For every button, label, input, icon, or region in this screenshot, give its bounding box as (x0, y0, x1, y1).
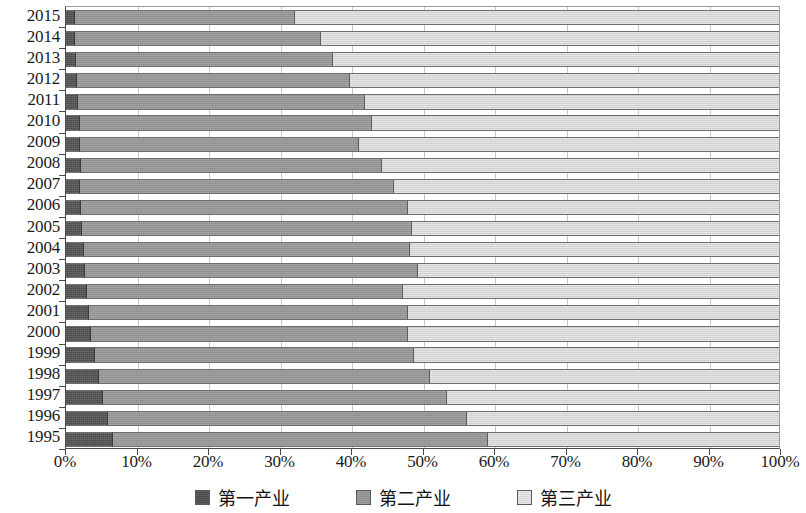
bar-segment (66, 432, 113, 447)
bar-row (66, 94, 779, 109)
bar-row (66, 115, 779, 130)
bar-row (66, 432, 779, 447)
bar-series-container (66, 7, 779, 448)
bar-row (66, 305, 779, 320)
x-axis-tick-label: 20% (193, 452, 224, 472)
x-axis-tick-label: 70% (550, 452, 581, 472)
bar-segment (87, 284, 404, 299)
bar-segment (321, 31, 779, 46)
bar-row (66, 31, 779, 46)
bar-row (66, 10, 779, 25)
y-axis-tick-label: 2015 (27, 6, 60, 26)
bar-row (66, 369, 779, 384)
bar-segment (382, 158, 779, 173)
bar-segment (359, 137, 779, 152)
legend-swatch-icon (195, 490, 210, 505)
bar-row (66, 326, 779, 341)
bar-segment (89, 305, 408, 320)
bar-segment (95, 347, 414, 362)
bar-segment (66, 10, 75, 25)
bar-row (66, 158, 779, 173)
bar-segment (408, 200, 779, 215)
bar-segment (66, 284, 87, 299)
bar-row (66, 284, 779, 299)
bar-segment (66, 158, 81, 173)
bar-segment (85, 263, 417, 278)
bar-segment (108, 411, 467, 426)
bar-row (66, 221, 779, 236)
bar-segment (80, 179, 394, 194)
y-axis-tick-label: 2007 (27, 174, 60, 194)
bar-segment (81, 200, 408, 215)
bar-segment (66, 390, 103, 405)
bar-segment (394, 179, 779, 194)
bar-segment (66, 326, 91, 341)
bar-segment (403, 284, 779, 299)
bar-segment (488, 432, 779, 447)
bar-segment (410, 242, 779, 257)
bar-segment (66, 200, 81, 215)
plot-area (65, 6, 780, 449)
y-axis-tick-label: 2000 (27, 322, 60, 342)
bar-segment (103, 390, 447, 405)
legend-item[interactable]: 第二产业 (356, 484, 451, 510)
bar-segment (418, 263, 779, 278)
bar-segment (447, 390, 779, 405)
x-axis-tick-label: 10% (121, 452, 152, 472)
bar-segment (408, 326, 779, 341)
bar-segment (66, 94, 78, 109)
bar-segment (80, 115, 372, 130)
bar-segment (84, 242, 411, 257)
y-axis-tick-label: 2004 (27, 238, 60, 258)
bar-segment (333, 52, 779, 67)
bar-row (66, 52, 779, 67)
bar-segment (99, 369, 430, 384)
bar-segment (75, 10, 295, 25)
y-axis-tick-label: 2002 (27, 280, 60, 300)
bar-segment (430, 369, 779, 384)
bar-segment (66, 305, 89, 320)
bar-row (66, 179, 779, 194)
legend-label: 第一产业 (218, 484, 290, 510)
x-axis-tick-label: 100% (761, 452, 800, 472)
x-axis-tick-label: 50% (407, 452, 438, 472)
bar-segment (365, 94, 779, 109)
legend-label: 第三产业 (540, 484, 612, 510)
x-axis-tick-label: 0% (54, 452, 76, 472)
legend-item[interactable]: 第三产业 (517, 484, 612, 510)
bar-segment (66, 369, 99, 384)
y-axis-tick-label: 2005 (27, 217, 60, 237)
y-axis-tick-label: 2012 (27, 69, 60, 89)
legend-swatch-icon (517, 490, 532, 505)
bar-segment (66, 52, 76, 67)
bar-row (66, 347, 779, 362)
y-axis-tick-label: 1997 (27, 385, 60, 405)
bar-segment (66, 179, 80, 194)
stacked-bar-chart: 2015201420132012201120102009200820072006… (0, 0, 806, 513)
bar-segment (295, 10, 779, 25)
legend-label: 第二产业 (379, 484, 451, 510)
bar-segment (414, 347, 779, 362)
bar-row (66, 200, 779, 215)
bar-segment (412, 221, 779, 236)
bar-segment (75, 31, 320, 46)
y-axis-tick-label: 2009 (27, 132, 60, 152)
bar-row (66, 390, 779, 405)
x-axis-tick-label: 60% (479, 452, 510, 472)
bar-segment (66, 347, 95, 362)
y-axis-tick-label: 1998 (27, 364, 60, 384)
bar-segment (467, 411, 779, 426)
bar-row (66, 263, 779, 278)
bar-segment (66, 411, 108, 426)
bar-row (66, 242, 779, 257)
y-axis-tick-label: 2011 (27, 90, 60, 110)
bar-segment (78, 94, 365, 109)
y-axis-tick-label: 2008 (27, 153, 60, 173)
y-axis-tick-label: 1995 (27, 427, 60, 447)
bar-segment (76, 52, 333, 67)
chart-legend: 第一产业第二产业第三产业 (0, 484, 806, 510)
y-axis-tick-label: 2001 (27, 301, 60, 321)
x-axis-tick-label: 80% (622, 452, 653, 472)
bar-segment (91, 326, 408, 341)
legend-item[interactable]: 第一产业 (195, 484, 290, 510)
